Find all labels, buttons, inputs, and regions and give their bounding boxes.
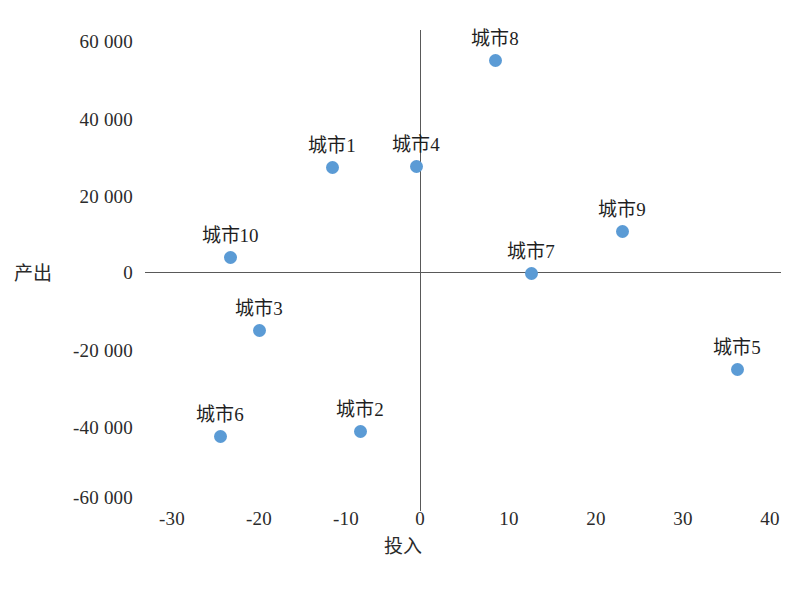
y-tick-label: 60 000 bbox=[0, 32, 133, 51]
y-axis-title: 产出 bbox=[14, 264, 52, 283]
x-tick-label: 30 bbox=[673, 509, 692, 528]
x-tick-label: 40 bbox=[760, 509, 779, 528]
data-point-label: 城市1 bbox=[308, 136, 356, 155]
data-point-label: 城市8 bbox=[471, 29, 519, 48]
data-point-label: 城市5 bbox=[713, 338, 761, 357]
scatter-chart: 60 00040 00020 0000-20 000-40 000-60 000… bbox=[0, 0, 807, 600]
y-tick-label: -40 000 bbox=[0, 418, 133, 437]
data-point[interactable] bbox=[354, 425, 367, 438]
x-tick-label: -20 bbox=[246, 509, 272, 528]
x-axis-title: 投入 bbox=[384, 537, 422, 556]
plot-area: 60 00040 00020 0000-20 000-40 000-60 000… bbox=[0, 0, 807, 600]
data-point-label: 城市2 bbox=[336, 400, 384, 419]
x-tick-label: 0 bbox=[415, 509, 425, 528]
y-tick-label: -60 000 bbox=[0, 488, 133, 507]
data-point-label: 城市9 bbox=[598, 200, 646, 219]
x-tick-label: -30 bbox=[159, 509, 185, 528]
x-tick-label: 20 bbox=[586, 509, 605, 528]
data-point-label: 城市4 bbox=[392, 135, 440, 154]
data-point[interactable] bbox=[616, 225, 629, 238]
x-tick-label: 10 bbox=[499, 509, 518, 528]
data-point-label: 城市3 bbox=[235, 299, 283, 318]
data-point[interactable] bbox=[489, 54, 502, 67]
data-point[interactable] bbox=[253, 324, 266, 337]
data-point[interactable] bbox=[214, 430, 227, 443]
data-point[interactable] bbox=[224, 251, 237, 264]
y-tick-label: 40 000 bbox=[0, 110, 133, 129]
data-point-label: 城市6 bbox=[196, 405, 244, 424]
data-point[interactable] bbox=[326, 161, 339, 174]
data-point-label: 城市10 bbox=[202, 226, 259, 245]
data-point[interactable] bbox=[410, 160, 423, 173]
data-point[interactable] bbox=[525, 267, 538, 280]
x-axis-line bbox=[145, 272, 781, 273]
data-point-label: 城市7 bbox=[507, 242, 555, 261]
data-point[interactable] bbox=[731, 363, 744, 376]
x-tick-label: -10 bbox=[333, 509, 359, 528]
y-axis-line bbox=[420, 30, 421, 511]
y-tick-label: 20 000 bbox=[0, 187, 133, 206]
y-tick-label: -20 000 bbox=[0, 341, 133, 360]
